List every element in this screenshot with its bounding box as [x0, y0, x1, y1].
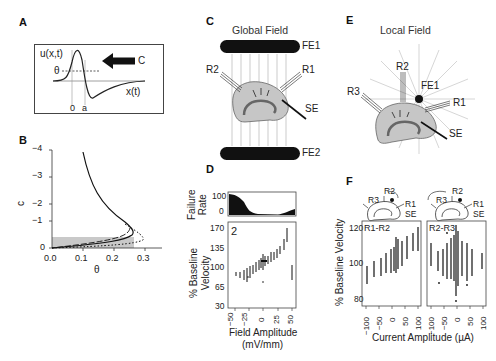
panel-a-ylabel: u(x,t): [40, 48, 63, 59]
panel-c-r2: R2: [206, 64, 219, 75]
fe2-electrode-icon: [220, 147, 300, 160]
panel-a-tick-0: 0: [70, 103, 75, 113]
panel-b-ylabel: c: [15, 201, 26, 206]
panel-d-failure-chart: [228, 192, 298, 222]
panel-e-se: SE: [449, 128, 462, 139]
panel-d-label: D: [206, 163, 214, 175]
panel-c-fe1: FE1: [302, 40, 320, 51]
panel-f-right-title: R2-R3: [429, 223, 455, 233]
panel-a-xlabel: x(t): [126, 86, 140, 97]
panel-d-failure-ytick-100: 100: [212, 191, 226, 201]
panel-f-left-icon-r2: R2: [384, 186, 395, 196]
panel-e-r3: R3: [347, 86, 360, 97]
panel-d-ytick-100: 100: [210, 262, 224, 272]
panel-b-xtick-2: 0.2: [106, 253, 119, 263]
panel-d-ytick-65: 65: [215, 282, 224, 292]
panel-d-xtick-50: 50: [286, 315, 295, 324]
panel-f-left-title: R1-R2: [364, 223, 390, 233]
panel-b-ytick-0: 0: [40, 242, 45, 252]
panel-f-left-icon-r1: R1: [405, 199, 416, 209]
panel-b-ytick-3: −3: [32, 170, 42, 180]
panel-d-ytick-170: 170: [210, 223, 224, 233]
hippocampal-slice-icon: [376, 103, 437, 143]
panel-d-failure-ytick-0: 0: [219, 206, 224, 216]
panel-f-right-icon-r1: R1: [473, 199, 484, 209]
panel-b-xtick-1: 0.1: [75, 253, 88, 263]
panel-f-right-xtick-50: 50: [466, 317, 475, 326]
panel-e-diagram: [320, 0, 496, 170]
panel-c-diagram: [170, 0, 320, 170]
panel-f-right-xtick-100: 100: [479, 317, 488, 330]
panel-e-r1: R1: [453, 97, 466, 108]
panel-d-ytick-135: 135: [210, 243, 224, 253]
panel-f-right-icon-se: SE: [473, 209, 484, 219]
panel-e-fe1: FE1: [421, 80, 439, 91]
panel-b-ytick-2: −2: [32, 198, 42, 208]
panel-d-failure-ylabel: Failure Rate: [186, 189, 208, 220]
panel-f-right-icon-r2: R2: [452, 186, 463, 196]
propagation-arrow-icon: [102, 53, 135, 69]
panel-f-left-xtick-50: 50: [401, 317, 410, 326]
panel-a-arrow-label: C: [138, 55, 145, 66]
failure-ylabel-line1: Failure: [186, 189, 197, 220]
panel-d-ytick-30: 30: [215, 301, 224, 311]
panel-f-right-chart: [427, 221, 496, 311]
panel-f-right-xtick-m50: −50: [440, 316, 449, 330]
panel-d-xtick-0: 0: [257, 318, 266, 322]
panel-f-right-icon-r3: R3: [436, 195, 447, 205]
panel-f-left-xtick-m100: −100: [362, 317, 371, 335]
panel-a-threshold-label: θ: [54, 65, 60, 76]
panel-e-r2: R2: [396, 61, 409, 72]
panel-f-xlabel: Current Amplitude (µA): [372, 332, 474, 343]
panel-b-plot: [0, 140, 170, 260]
panel-f-left-xtick-0: 0: [388, 318, 397, 322]
failure-ylabel-line2: Rate: [197, 189, 208, 220]
panel-d-inset-number: 2: [231, 225, 237, 237]
panel-d-xlabel-2: (mV/mm): [242, 339, 283, 350]
panel-b-xtick-3: 0.3: [137, 253, 150, 263]
panel-b-ytick-4: −4: [32, 143, 42, 153]
panel-f-left-icon-se: SE: [405, 209, 416, 219]
panel-c-fe2: FE2: [302, 147, 320, 158]
panel-d-xlabel-1: Field Amplitude: [229, 327, 297, 338]
panel-f-left-xtick-100: 100: [414, 317, 423, 330]
panel-a-tick-a: a: [82, 103, 87, 113]
panel-b-xlabel: θ: [94, 264, 100, 275]
vel-ylabel-line2: Velocity: [200, 248, 212, 298]
panel-f-left-icon-r3: R3: [368, 195, 379, 205]
fe1-electrode-icon: [415, 95, 423, 103]
panel-f-ylabel: % Baseline Velocity: [334, 219, 345, 306]
panel-c-se: SE: [305, 103, 318, 114]
fe1-electrode-icon: [220, 40, 300, 53]
panel-b-xtick-0: 0.0: [44, 253, 57, 263]
panel-b-ytick-1: −1: [32, 215, 42, 225]
panel-d-vel-ylabel: % Baseline Velocity: [188, 248, 212, 298]
panel-f-label: F: [346, 175, 353, 187]
panel-c-r1: R1: [302, 64, 315, 75]
panel-d-xtick-25: 25: [272, 315, 281, 324]
panel-f-left-chart: [362, 221, 432, 311]
panel-f-right-xtick-0: 0: [453, 318, 462, 322]
panel-d-xtick-m25: −25: [240, 312, 249, 326]
panel-f-left-xtick-m50: −50: [375, 316, 384, 330]
panel-d-velocity-chart: [228, 222, 300, 322]
vel-ylabel-line1: % Baseline: [188, 248, 200, 298]
panel-d-xtick-m50: −50: [226, 312, 235, 326]
